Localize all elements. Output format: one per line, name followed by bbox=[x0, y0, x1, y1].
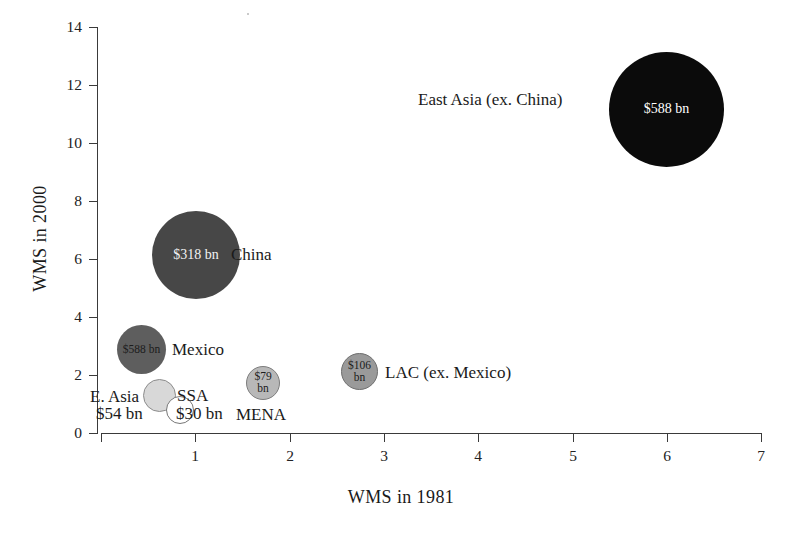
scan-artifact-speck bbox=[247, 13, 249, 15]
x-axis-title: WMS in 1981 bbox=[0, 487, 802, 508]
x-tick-label-2: 2 bbox=[275, 448, 305, 464]
series-label-east-asia-ex-china: East Asia (ex. China) bbox=[418, 90, 562, 109]
bubble-value-mexico: $588 bn bbox=[123, 344, 160, 356]
y-axis-title: WMS in 2000 bbox=[30, 139, 51, 339]
x-tick-1 bbox=[195, 433, 196, 442]
series-value-e-asia: $54 bn bbox=[96, 404, 143, 423]
bubble-mexico[interactable]: $588 bn bbox=[117, 325, 166, 374]
y-tick-label-14: 14 bbox=[42, 19, 82, 35]
x-tick-label-6: 6 bbox=[652, 448, 682, 464]
x-tick-2 bbox=[290, 433, 291, 442]
x-tick-3 bbox=[384, 433, 385, 442]
x-tick-label-5: 5 bbox=[558, 448, 588, 464]
y-tick-label-2: 2 bbox=[42, 367, 82, 383]
y-tick-0 bbox=[89, 433, 97, 434]
bubble-east-asia-ex-china[interactable]: $588 bn bbox=[609, 52, 724, 167]
bubble-china[interactable]: $318 bn bbox=[152, 211, 240, 299]
x-tick-0 bbox=[101, 433, 102, 442]
bubble-chart: 0 2 4 6 8 10 12 14 1 2 3 4 5 6 7 WMS in … bbox=[0, 0, 802, 535]
x-tick-label-3: 3 bbox=[369, 448, 399, 464]
bubble-value-mena: $79 bn bbox=[254, 371, 271, 394]
y-tick-12 bbox=[89, 85, 97, 86]
bubble-value-lac-ex-mexico: $106 bn bbox=[348, 360, 371, 383]
bubble-value-east-asia-ex-china: $588 bn bbox=[644, 102, 690, 116]
y-tick-4 bbox=[89, 317, 97, 318]
x-axis-line bbox=[101, 433, 762, 434]
y-tick-2 bbox=[89, 375, 97, 376]
bubble-lac-ex-mexico[interactable]: $106 bn bbox=[341, 353, 378, 390]
x-tick-label-1: 1 bbox=[180, 448, 210, 464]
series-label-china: China bbox=[231, 245, 272, 264]
y-tick-label-0: 0 bbox=[42, 425, 82, 441]
y-tick-label-12: 12 bbox=[42, 77, 82, 93]
bubble-value-china: $318 bn bbox=[173, 248, 219, 262]
series-label-lac-ex-mexico: LAC (ex. Mexico) bbox=[385, 363, 511, 382]
series-value-ssa: $30 bn bbox=[176, 404, 223, 423]
x-tick-4 bbox=[478, 433, 479, 442]
x-tick-label-7: 7 bbox=[746, 448, 776, 464]
series-label-ssa: SSA bbox=[177, 386, 208, 405]
x-tick-7 bbox=[761, 433, 762, 442]
series-label-mexico: Mexico bbox=[172, 340, 224, 359]
y-tick-10 bbox=[89, 143, 97, 144]
x-tick-6 bbox=[667, 433, 668, 442]
x-tick-label-4: 4 bbox=[463, 448, 493, 464]
y-tick-14 bbox=[89, 27, 97, 28]
y-axis-line bbox=[97, 27, 98, 434]
bubble-mena[interactable]: $79 bn bbox=[246, 366, 280, 400]
series-label-mena: MENA bbox=[236, 405, 286, 424]
x-tick-5 bbox=[573, 433, 574, 442]
y-tick-6 bbox=[89, 259, 97, 260]
y-tick-8 bbox=[89, 201, 97, 202]
